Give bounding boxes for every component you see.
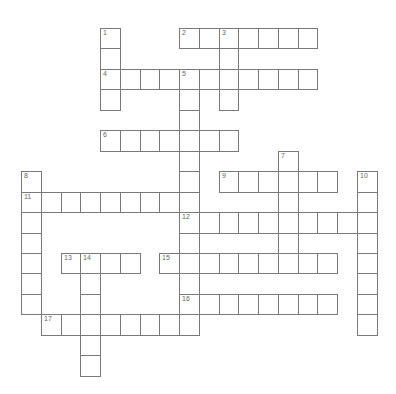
crossword-cell[interactable] [298, 69, 318, 90]
crossword-cell[interactable] [120, 130, 141, 152]
crossword-cell[interactable] [140, 69, 160, 90]
crossword-cell[interactable] [179, 253, 200, 274]
crossword-cell[interactable] [179, 273, 200, 295]
crossword-cell[interactable] [100, 192, 121, 213]
crossword-cell[interactable] [298, 28, 318, 49]
crossword-cell[interactable]: 8 [21, 171, 42, 193]
crossword-cell[interactable] [278, 294, 299, 315]
crossword-cell[interactable] [21, 294, 42, 315]
crossword-cell[interactable] [317, 294, 338, 315]
crossword-cell[interactable] [357, 212, 378, 234]
crossword-cell[interactable] [120, 253, 141, 274]
crossword-cell[interactable] [179, 130, 200, 152]
crossword-cell[interactable] [298, 212, 318, 234]
crossword-cell[interactable] [258, 294, 279, 315]
crossword-cell[interactable] [61, 314, 81, 336]
crossword-cell[interactable] [317, 253, 338, 274]
crossword-cell[interactable] [80, 273, 101, 295]
crossword-cell[interactable] [298, 294, 318, 315]
crossword-cell[interactable] [219, 69, 239, 90]
crossword-cell[interactable] [179, 314, 200, 336]
crossword-cell[interactable] [100, 89, 121, 111]
crossword-cell[interactable] [258, 212, 279, 234]
crossword-cell[interactable]: 17 [41, 314, 62, 336]
crossword-cell[interactable] [238, 294, 259, 315]
crossword-cell[interactable] [140, 130, 160, 152]
crossword-cell[interactable] [219, 89, 239, 111]
crossword-cell[interactable] [357, 314, 378, 336]
crossword-cell[interactable] [317, 212, 338, 234]
crossword-cell[interactable] [199, 28, 220, 49]
crossword-cell[interactable] [357, 233, 378, 254]
crossword-cell[interactable]: 14 [80, 253, 101, 274]
crossword-cell[interactable] [199, 69, 220, 90]
crossword-cell[interactable] [100, 314, 121, 336]
crossword-cell[interactable] [278, 28, 299, 49]
crossword-cell[interactable] [258, 253, 279, 274]
crossword-cell[interactable] [219, 130, 239, 152]
crossword-cell[interactable]: 1 [100, 28, 121, 49]
crossword-cell[interactable] [357, 192, 378, 213]
crossword-cell[interactable] [159, 314, 180, 336]
crossword-cell[interactable] [140, 192, 160, 213]
crossword-cell[interactable] [21, 273, 42, 295]
crossword-cell[interactable]: 10 [357, 171, 378, 193]
crossword-cell[interactable] [21, 233, 42, 254]
crossword-cell[interactable] [219, 253, 239, 274]
crossword-cell[interactable] [120, 192, 141, 213]
crossword-cell[interactable] [278, 253, 299, 274]
crossword-cell[interactable]: 11 [21, 192, 42, 213]
crossword-cell[interactable] [258, 28, 279, 49]
crossword-cell[interactable] [100, 253, 121, 274]
crossword-cell[interactable]: 16 [179, 294, 200, 315]
crossword-cell[interactable] [100, 48, 121, 70]
crossword-cell[interactable] [140, 314, 160, 336]
crossword-cell[interactable] [278, 233, 299, 254]
crossword-cell[interactable] [80, 355, 101, 377]
crossword-cell[interactable] [21, 253, 42, 274]
crossword-cell[interactable] [298, 171, 318, 193]
crossword-cell[interactable]: 6 [100, 130, 121, 152]
crossword-cell[interactable] [159, 192, 180, 213]
crossword-cell[interactable] [238, 253, 259, 274]
crossword-cell[interactable] [258, 171, 279, 193]
crossword-cell[interactable]: 13 [61, 253, 81, 274]
crossword-cell[interactable] [357, 273, 378, 295]
crossword-cell[interactable]: 12 [179, 212, 200, 234]
crossword-cell[interactable]: 2 [179, 28, 200, 49]
crossword-cell[interactable]: 15 [159, 253, 180, 274]
crossword-cell[interactable] [179, 233, 200, 254]
crossword-cell[interactable] [80, 335, 101, 356]
crossword-cell[interactable] [120, 69, 141, 90]
crossword-cell[interactable]: 9 [219, 171, 239, 193]
crossword-cell[interactable] [80, 294, 101, 315]
crossword-cell[interactable] [199, 130, 220, 152]
crossword-cell[interactable] [278, 192, 299, 213]
crossword-cell[interactable] [159, 130, 180, 152]
crossword-cell[interactable] [337, 212, 358, 234]
crossword-cell[interactable] [179, 110, 200, 131]
crossword-cell[interactable] [199, 212, 220, 234]
crossword-cell[interactable] [199, 253, 220, 274]
crossword-cell[interactable] [61, 192, 81, 213]
crossword-cell[interactable] [219, 48, 239, 70]
crossword-cell[interactable]: 4 [100, 69, 121, 90]
crossword-cell[interactable] [159, 69, 180, 90]
crossword-cell[interactable] [219, 212, 239, 234]
crossword-cell[interactable] [278, 69, 299, 90]
crossword-cell[interactable] [179, 171, 200, 193]
crossword-cell[interactable] [298, 253, 318, 274]
crossword-cell[interactable] [238, 69, 259, 90]
crossword-cell[interactable] [357, 294, 378, 315]
crossword-cell[interactable] [238, 28, 259, 49]
crossword-cell[interactable] [357, 253, 378, 274]
crossword-cell[interactable] [258, 69, 279, 90]
crossword-cell[interactable] [41, 192, 62, 213]
crossword-cell[interactable] [238, 171, 259, 193]
crossword-cell[interactable] [80, 192, 101, 213]
crossword-cell[interactable] [179, 192, 200, 213]
crossword-cell[interactable] [21, 212, 42, 234]
crossword-cell[interactable] [80, 314, 101, 336]
crossword-cell[interactable]: 7 [278, 151, 299, 172]
crossword-cell[interactable] [219, 294, 239, 315]
